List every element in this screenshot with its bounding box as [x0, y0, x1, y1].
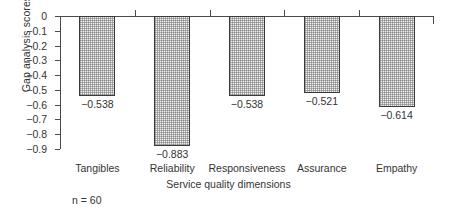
y-tick-label: −0.7: [26, 113, 47, 125]
y-tick-label: 0: [41, 10, 47, 22]
y-tick: −0.4: [55, 75, 60, 76]
y-tick: −0.1: [55, 31, 60, 32]
y-tick: −0.5: [55, 90, 60, 91]
axis-right-cap: [433, 16, 434, 24]
y-tick-label: −0.1: [26, 25, 47, 37]
bar: [154, 16, 190, 146]
x-tick: [359, 10, 360, 16]
bar-value-label: −0.538: [57, 98, 137, 110]
bar: [79, 16, 115, 96]
bar: [229, 16, 265, 96]
bar-chart-figure: Gap analysis scores 0−0.1−0.2−0.3−0.4−0.…: [0, 0, 457, 218]
y-tick: −0.8: [55, 134, 60, 135]
y-tick: −0.2: [55, 46, 60, 47]
bar-value-label: −0.521: [282, 95, 362, 107]
sample-size-note: n = 60: [72, 194, 102, 206]
x-category-label: Empathy: [337, 162, 457, 174]
bar: [304, 16, 340, 93]
y-tick-label: −0.5: [26, 84, 47, 96]
y-tick-label: −0.8: [26, 128, 47, 140]
plot-area: 0−0.1−0.2−0.3−0.4−0.5−0.6−0.7−0.8−0.9 −0…: [60, 16, 434, 149]
x-tick: [284, 10, 285, 16]
bar: [379, 16, 415, 107]
y-tick-label: −0.2: [26, 40, 47, 52]
y-axis-line: [60, 16, 61, 149]
y-tick: −0.9: [55, 149, 60, 150]
bar-value-label: −0.538: [207, 98, 287, 110]
bar-value-label: −0.883: [132, 148, 212, 160]
bar-value-label: −0.614: [357, 109, 437, 121]
y-tick-label: −0.3: [26, 54, 47, 66]
y-tick: −0.3: [55, 60, 60, 61]
x-tick: [135, 10, 136, 16]
y-tick-label: −0.4: [26, 69, 47, 81]
y-tick-label: −0.6: [26, 99, 47, 111]
x-tick: [210, 10, 211, 16]
x-axis-title: Service quality dimensions: [0, 178, 457, 190]
y-tick: −0.7: [55, 119, 60, 120]
y-tick-label: −0.9: [26, 143, 47, 155]
y-tick: 0: [55, 16, 60, 17]
